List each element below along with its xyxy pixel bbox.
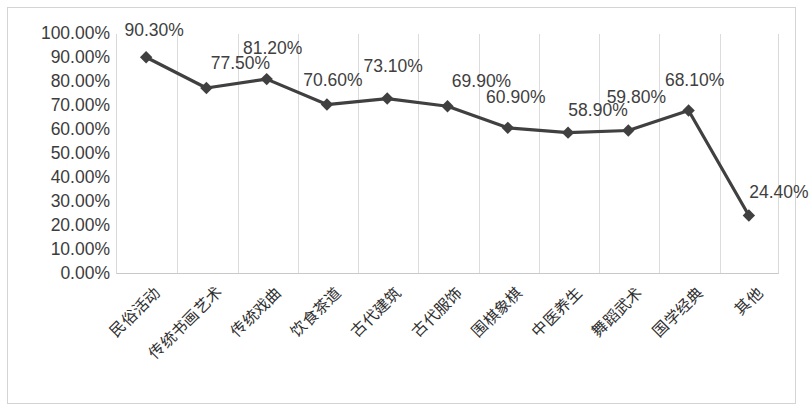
y-axis-tick-label: 10.00%: [14, 241, 110, 259]
data-point-marker[interactable]: [562, 126, 574, 138]
data-point-label: 24.40%: [749, 184, 808, 202]
y-axis-tick-label: 20.00%: [14, 217, 110, 235]
data-point-marker[interactable]: [502, 122, 514, 134]
y-axis: 100.00%90.00%80.00%70.00%60.00%50.00%40.…: [14, 34, 110, 274]
data-point-label: 73.10%: [364, 57, 423, 75]
data-point-label: 90.30%: [124, 22, 183, 40]
data-point-marker[interactable]: [260, 73, 272, 85]
data-point-marker[interactable]: [321, 98, 333, 110]
y-axis-tick-label: 70.00%: [14, 97, 110, 115]
series-markers: [140, 51, 755, 222]
y-axis-tick-label: 30.00%: [14, 193, 110, 211]
y-axis-tick-label: 60.00%: [14, 121, 110, 139]
data-point-label: 81.20%: [243, 40, 302, 58]
data-point-marker[interactable]: [622, 124, 634, 136]
y-axis-tick-label: 90.00%: [14, 49, 110, 67]
series-polyline: [146, 57, 749, 215]
data-point-marker[interactable]: [682, 104, 694, 116]
data-point-label: 70.60%: [303, 71, 362, 89]
y-axis-tick-label: 0.00%: [14, 265, 110, 283]
data-point-marker[interactable]: [200, 82, 212, 94]
data-point-label: 60.90%: [486, 88, 545, 106]
y-axis-tick-label: 50.00%: [14, 145, 110, 163]
y-axis-tick-label: 100.00%: [14, 25, 110, 43]
data-point-label: 59.80%: [607, 89, 666, 107]
y-axis-tick-label: 80.00%: [14, 73, 110, 91]
data-point-label: 68.10%: [665, 71, 724, 89]
y-axis-tick-label: 40.00%: [14, 169, 110, 187]
data-point-marker[interactable]: [140, 51, 152, 63]
data-point-marker[interactable]: [381, 92, 393, 104]
data-point-marker[interactable]: [441, 100, 453, 112]
